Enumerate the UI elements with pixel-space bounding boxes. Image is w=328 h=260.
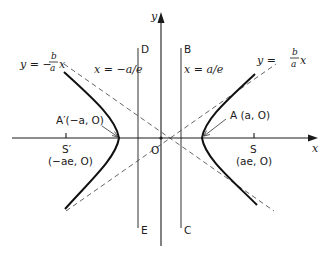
focus-left-coords: (−ae, O) bbox=[48, 155, 93, 167]
y-axis-arrow-icon bbox=[158, 12, 165, 23]
hyperbola-right-branch bbox=[202, 74, 257, 205]
vertex-right-label: A (a, O) bbox=[230, 109, 270, 121]
asymptote-positive-numerator: b bbox=[292, 47, 298, 57]
axes bbox=[12, 12, 318, 246]
asymptote-negative-lhs: y = − bbox=[19, 58, 52, 71]
directrix-right-bottom-label: C bbox=[184, 224, 191, 236]
asymptote-positive-lhs: y = bbox=[256, 54, 276, 67]
vertex-left-label: A′(−a, O) bbox=[56, 114, 104, 126]
origin-label: O bbox=[151, 144, 159, 156]
hyperbola-left-branch bbox=[64, 72, 119, 209]
directrix-left-bottom-label: E bbox=[141, 224, 148, 236]
y-axis-label: y bbox=[150, 10, 158, 23]
vertex-right-pointer bbox=[204, 119, 226, 136]
focus-right-name: S bbox=[250, 143, 257, 155]
asymptote-positive-label: y = b a x bbox=[256, 47, 307, 69]
hyperbola-diagram: y x O D E B C x = −a/e x = a/e y = − b a… bbox=[0, 0, 328, 260]
directrix-right-equation: x = a/e bbox=[184, 63, 224, 76]
asymptote-positive-rhs: x bbox=[300, 54, 307, 67]
directrix-right-top-label: B bbox=[184, 43, 191, 55]
focus-left-name: S′ bbox=[62, 143, 72, 155]
asymptote-negative-numerator: b bbox=[51, 51, 57, 61]
directrix-left-top-label: D bbox=[141, 43, 149, 55]
origin-point bbox=[159, 136, 162, 139]
x-axis-arrow-icon bbox=[308, 135, 318, 142]
asymptote-negative-rhs: x bbox=[59, 58, 66, 71]
directrix-left-equation: x = −a/e bbox=[94, 63, 143, 76]
asymptote-negative-label: y = − b a x bbox=[19, 51, 66, 73]
asymptote-positive-denominator: a bbox=[291, 59, 296, 69]
focus-right-coords: (ae, O) bbox=[236, 155, 272, 167]
x-axis-label: x bbox=[312, 142, 319, 155]
asymptote-negative-denominator: a bbox=[50, 63, 55, 73]
